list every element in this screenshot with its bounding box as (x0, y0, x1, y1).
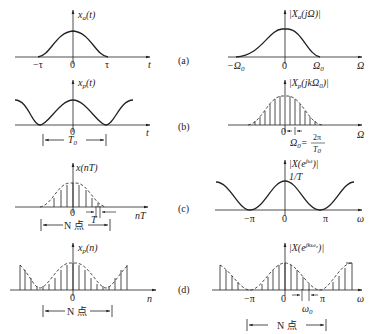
panel-a-right-labels: |Xa(jΩ)| −Ω0 0 Ω0 Ω (227, 8, 364, 73)
xlabel: nT (135, 210, 147, 221)
bracket-label: N 点 (277, 320, 297, 331)
tick-zero: 0 (70, 59, 75, 70)
envelope-dashed (220, 263, 352, 290)
sample-spacing-label: T (91, 214, 98, 225)
peak-label: 1/T (289, 171, 304, 182)
panel-d-left-labels: xp(n) 0 n N 点 (67, 242, 152, 317)
panel-d-right (212, 243, 362, 331)
fourier-sampling-diagram: (a) (b) (c) (d) xa(t) −τ 0 τ t |Xa(jΩ)| … (0, 0, 381, 334)
ylabel: xp(t) (77, 77, 96, 90)
panel-c-right-labels: |X(ejω)| 1/T −π 0 π ω (244, 157, 364, 224)
frac-denominator: T0 (313, 145, 321, 155)
ylabel: |Xp(jkΩ0)| (289, 77, 329, 90)
panel-b-right (228, 80, 362, 135)
xlabel: Ω (357, 60, 364, 71)
panel-b-left-labels: xp(t) 0 t T0 (68, 77, 149, 147)
ylabel: |Xa(jΩ)| (289, 8, 321, 21)
tick-neg-tau: −τ (33, 59, 43, 70)
spacing-label: Ω0= (290, 137, 307, 150)
tick-pi: π (323, 213, 328, 224)
spectrum-curve (236, 29, 320, 57)
xlabel: ω (357, 213, 364, 224)
bracket-label: N 点 (64, 220, 84, 231)
periodic-signal-curve (15, 100, 133, 125)
tick-zero: 0 (281, 293, 286, 304)
spacing-label: ω0 (302, 303, 313, 316)
panel-tag-b: (b) (178, 121, 190, 133)
panel-tags: (a) (b) (c) (d) (178, 55, 190, 296)
ylabel: |X(ejω)| (289, 157, 319, 170)
tick-zero: 0 (282, 213, 287, 224)
tick-tau: τ (105, 59, 109, 70)
bracket-label: N 点 (67, 306, 87, 317)
panel-tag-d: (d) (178, 284, 190, 296)
frac-numerator: 2π (313, 133, 321, 142)
tick-zero: 0 (70, 292, 75, 303)
xlabel: ω (357, 293, 364, 304)
panel-tag-a: (a) (178, 55, 189, 67)
xlabel: Ω (357, 129, 364, 140)
panel-tag-c: (c) (178, 203, 189, 215)
panel-c-left-labels: x(nT) 0 nT T N 点 (64, 162, 147, 231)
xlabel: n (147, 293, 152, 304)
ylabel: x(nT) (75, 162, 98, 174)
tick-zero: 0 (281, 126, 286, 137)
tick-pi: π (320, 293, 325, 304)
panel-a-left-labels: xa(t) −τ 0 τ t (33, 9, 151, 70)
panel-b-right-labels: |Xp(jkΩ0)| 0 Ω Ω0= 2π T0 (281, 77, 364, 155)
tick-neg-pi: −π (244, 213, 255, 224)
tick-neg-omega0: −Ω0 (227, 60, 245, 73)
tick-zero: 0 (282, 60, 287, 71)
dft-lines (220, 263, 352, 290)
period-label: T0 (68, 134, 78, 147)
xlabel: t (148, 59, 151, 70)
envelope-dashed (20, 263, 128, 288)
tick-omega0: Ω0 (313, 60, 324, 73)
ylabel: xp(n) (77, 242, 98, 255)
ylabel: |X(ejkω₀)| (289, 241, 324, 254)
tick-neg-pi: −π (244, 293, 255, 304)
tick-zero: 0 (70, 207, 75, 218)
ylabel: xa(t) (77, 9, 96, 22)
xlabel: t (146, 127, 149, 138)
